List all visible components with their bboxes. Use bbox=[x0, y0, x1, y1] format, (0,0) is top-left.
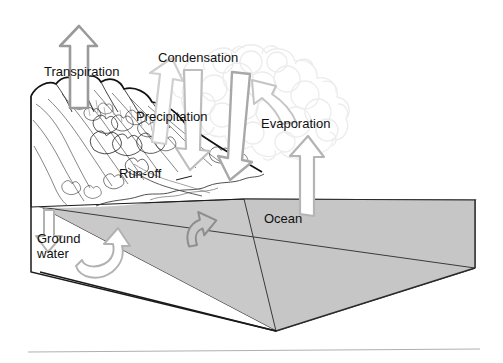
water-cycle-figure: Transpiration Condensation Precipitation… bbox=[0, 0, 503, 363]
footer-rule bbox=[28, 349, 480, 352]
water-cycle-diagram bbox=[0, 0, 503, 363]
precipitation-arrow-right bbox=[218, 72, 252, 180]
evaporation-arrow-upper bbox=[252, 80, 296, 124]
ocean-lower-wedge bbox=[244, 199, 475, 331]
